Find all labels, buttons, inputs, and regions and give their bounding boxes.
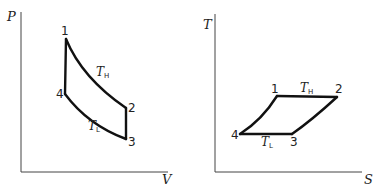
ts-diagram: T S 1 2 3 4 TH TL xyxy=(203,14,373,187)
ts-th-label: TH xyxy=(300,81,313,96)
pv-point-1-label: 1 xyxy=(61,24,69,38)
pv-point-4-label: 4 xyxy=(56,87,64,101)
ts-adiabat-right xyxy=(292,97,337,134)
ts-point-3-label: 3 xyxy=(290,135,298,149)
pv-tl-label: TL xyxy=(88,119,100,134)
ts-y-axis-label: T xyxy=(203,17,213,32)
pv-point-2-label: 2 xyxy=(128,101,136,115)
ts-x-axis-label: S xyxy=(364,172,373,187)
ts-isotherm-high-line xyxy=(277,96,337,97)
ts-adiabat-left xyxy=(240,96,277,134)
ts-point-2-label: 2 xyxy=(335,82,343,96)
pv-y-axis-label: P xyxy=(6,9,16,24)
pv-point-3-label: 3 xyxy=(128,135,136,149)
pv-adiabat-left xyxy=(65,39,66,94)
thermodynamic-cycle-figure: P V 1 2 3 4 TH TL T S 1 2 3 4 TH xyxy=(0,0,380,190)
pv-x-axis-label: V xyxy=(162,172,173,187)
ts-point-1-label: 1 xyxy=(271,82,279,96)
ts-tl-label: TL xyxy=(261,135,273,150)
pv-diagram: P V 1 2 3 4 TH TL xyxy=(6,9,173,187)
pv-th-label: TH xyxy=(96,65,109,80)
ts-point-4-label: 4 xyxy=(231,128,239,142)
